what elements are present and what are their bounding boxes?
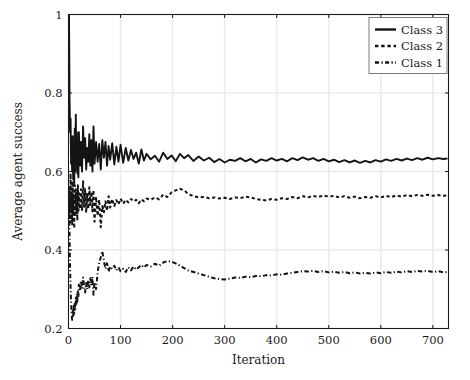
line-chart-canvas: 0.20.40.60.810100200300400500600700Itera… [0, 0, 470, 380]
legend-label: Class 2 [401, 39, 443, 53]
legend: Class 3Class 2Class 1 [369, 18, 447, 74]
ytick-label: 0.8 [44, 86, 62, 100]
x-axis-title: Iteration [232, 353, 285, 367]
xtick-label: 200 [162, 333, 184, 347]
xtick-label: 600 [370, 333, 392, 347]
xtick-label: 700 [422, 333, 444, 347]
xtick-label: 500 [318, 333, 340, 347]
ytick-label: 0.2 [44, 322, 62, 336]
ytick-label: 1 [55, 8, 62, 22]
xtick-label: 0 [65, 333, 72, 347]
xtick-label: 300 [214, 333, 236, 347]
y-axis-title: Average agent success [11, 102, 25, 242]
xtick-label: 400 [266, 333, 288, 347]
chart-figure: 0.20.40.60.810100200300400500600700Itera… [0, 0, 470, 380]
ytick-label: 0.6 [44, 165, 62, 179]
xtick-label: 100 [110, 333, 132, 347]
legend-label: Class 1 [401, 56, 443, 70]
legend-label: Class 3 [401, 23, 443, 37]
ytick-label: 0.4 [44, 243, 62, 257]
